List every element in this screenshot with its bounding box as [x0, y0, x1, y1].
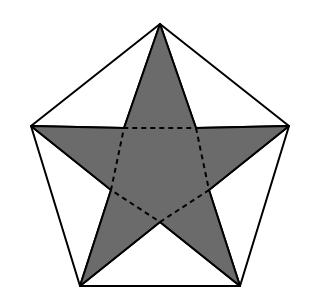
pentagram-diagram: [0, 0, 314, 306]
figure-canvas: [0, 0, 314, 306]
